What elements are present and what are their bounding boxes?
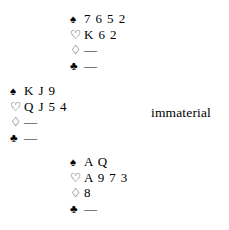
suit-row-spades: ♠ K J 9 [10,83,68,99]
south-clubs-cards: — [82,201,97,217]
south-hearts-cards: A 9 7 3 [82,170,128,186]
north-diamonds-cards: — [82,42,97,58]
club-suit-icon: ♣ [70,202,82,218]
suit-row-clubs: ♣ — [70,201,128,217]
diamond-suit-icon: ♢ [70,186,82,202]
suit-row-hearts: ♡ A 9 7 3 [70,170,128,186]
north-spades-cards: 7 6 5 2 [82,11,126,27]
hand-north: ♠ 7 6 5 2 ♡ K 6 2 ♢ — ♣ — [70,11,126,73]
suit-row-diamonds: ♢ 8 [70,185,128,201]
suit-row-hearts: ♡ Q J 5 4 [10,99,68,115]
west-clubs-cards: — [22,130,37,146]
diamond-suit-icon: ♢ [10,115,22,131]
heart-suit-icon: ♡ [70,28,82,44]
spade-suit-icon: ♠ [70,155,82,171]
west-spades-cards: K J 9 [22,83,56,99]
west-diamonds-cards: — [22,114,37,130]
club-suit-icon: ♣ [70,59,82,75]
spade-suit-icon: ♠ [70,12,82,28]
diamond-suit-icon: ♢ [70,43,82,59]
west-hearts-cards: Q J 5 4 [22,99,68,115]
suit-row-diamonds: ♢ — [70,42,126,58]
bridge-deal-diagram: ♠ 7 6 5 2 ♡ K 6 2 ♢ — ♣ — ♠ K J 9 ♡ Q J … [0,0,229,230]
hand-west: ♠ K J 9 ♡ Q J 5 4 ♢ — ♣ — [10,83,68,145]
suit-row-hearts: ♡ K 6 2 [70,27,126,43]
suit-row-diamonds: ♢ — [10,114,68,130]
heart-suit-icon: ♡ [10,100,22,116]
south-spades-cards: A Q [82,154,108,170]
heart-suit-icon: ♡ [70,171,82,187]
hand-south: ♠ A Q ♡ A 9 7 3 ♢ 8 ♣ — [70,154,128,216]
suit-row-clubs: ♣ — [10,130,68,146]
suit-row-clubs: ♣ — [70,58,126,74]
east-hand-note: immaterial [151,105,211,121]
north-clubs-cards: — [82,58,97,74]
north-hearts-cards: K 6 2 [82,27,117,43]
club-suit-icon: ♣ [10,131,22,147]
south-diamonds-cards: 8 [82,185,91,201]
suit-row-spades: ♠ 7 6 5 2 [70,11,126,27]
suit-row-spades: ♠ A Q [70,154,128,170]
spade-suit-icon: ♠ [10,84,22,100]
